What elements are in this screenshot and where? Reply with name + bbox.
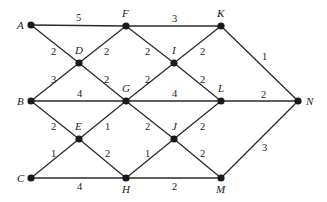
edge-weight-j-m: 2 xyxy=(200,148,205,159)
edge-weight-f-d: 2 xyxy=(104,46,109,57)
edge-weight-h-m: 2 xyxy=(172,181,177,192)
node-label-f: F xyxy=(121,7,129,19)
edge-weight-g-j: 2 xyxy=(145,121,150,132)
edge-weight-g-i: 2 xyxy=(145,74,150,85)
node-label-c: C xyxy=(17,172,25,184)
node-n xyxy=(294,97,301,104)
node-d xyxy=(75,59,82,66)
node-c xyxy=(27,174,34,181)
node-l xyxy=(217,97,224,104)
edge-g-j xyxy=(126,101,174,139)
node-m xyxy=(217,174,224,181)
edge-weight-c-e: 1 xyxy=(51,148,56,159)
edge-m-n xyxy=(221,101,298,178)
node-label-i: I xyxy=(171,44,177,56)
node-i xyxy=(170,59,177,66)
edge-k-n xyxy=(221,26,298,101)
edge-weight-f-k: 3 xyxy=(172,13,177,24)
node-a xyxy=(27,21,34,28)
node-j xyxy=(170,135,177,142)
edge-e-h xyxy=(79,139,126,178)
edge-a-f xyxy=(31,25,126,26)
node-label-j: J xyxy=(172,120,178,132)
weighted-graph: 5322221322244221221212342 AFKDIBGLNEJCHM xyxy=(0,0,327,202)
edge-weight-a-f: 5 xyxy=(76,12,81,23)
edge-l-j xyxy=(174,101,221,139)
node-label-n: N xyxy=(305,95,314,107)
node-label-l: L xyxy=(217,82,224,94)
edge-weight-d-g: 2 xyxy=(104,74,109,85)
edge-weight-l-n: 2 xyxy=(261,89,266,100)
node-label-d: D xyxy=(74,44,83,56)
edge-g-e xyxy=(79,101,126,139)
edge-weight-b-e: 2 xyxy=(51,121,56,132)
edge-weight-g-e: 1 xyxy=(105,121,110,132)
edge-weight-k-n: 1 xyxy=(262,51,267,62)
edge-weight-b-d: 3 xyxy=(51,74,56,85)
node-f xyxy=(122,22,129,29)
node-b xyxy=(27,97,34,104)
edges-layer xyxy=(31,25,298,178)
edge-weight-b-g: 4 xyxy=(77,88,83,99)
edge-weight-g-l: 4 xyxy=(172,88,178,99)
node-label-g: G xyxy=(122,82,130,94)
edge-weight-f-i: 2 xyxy=(145,46,150,57)
node-g xyxy=(122,97,129,104)
edge-weight-i-l: 2 xyxy=(200,74,205,85)
edge-d-g xyxy=(79,63,126,101)
node-h xyxy=(122,174,129,181)
edge-weight-m-n: 3 xyxy=(262,142,267,153)
node-label-k: K xyxy=(216,7,225,19)
node-label-a: A xyxy=(16,19,24,31)
edge-k-i xyxy=(174,26,221,63)
node-e xyxy=(75,135,82,142)
edge-weight-e-h: 2 xyxy=(105,148,110,159)
edge-weight-c-h: 4 xyxy=(77,181,83,192)
node-label-b: B xyxy=(17,95,24,107)
edge-i-l xyxy=(174,63,221,101)
node-label-h: H xyxy=(121,183,131,195)
edge-a-d xyxy=(31,25,79,63)
edge-weight-a-d: 2 xyxy=(51,46,56,57)
edge-j-m xyxy=(174,139,221,178)
edge-weight-k-i: 2 xyxy=(200,46,205,57)
node-k xyxy=(217,22,224,29)
edge-weight-l-j: 2 xyxy=(200,121,205,132)
node-label-e: E xyxy=(74,120,82,132)
edge-f-d xyxy=(79,26,126,63)
edge-weight-h-j: 1 xyxy=(145,148,150,159)
edge-f-i xyxy=(126,26,174,63)
node-label-m: M xyxy=(215,183,226,195)
edge-b-e xyxy=(31,101,79,139)
